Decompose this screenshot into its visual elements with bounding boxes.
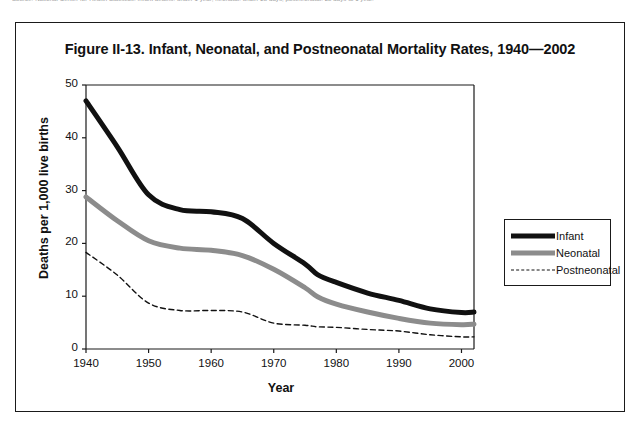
x-tick-label: 1980 — [311, 357, 361, 369]
mortality-rates-line-chart — [16, 23, 626, 413]
x-tick-label: 1950 — [124, 357, 174, 369]
legend-item-postneonatal: Postneonatal — [511, 261, 604, 278]
x-tick-label: 1970 — [249, 357, 299, 369]
series-line-postneonatal — [86, 252, 474, 337]
legend-item-neonatal: Neonatal — [511, 244, 604, 261]
x-axis-title: Year — [86, 381, 476, 395]
y-tick-label: 50 — [44, 77, 78, 89]
legend-label-infant: Infant — [555, 230, 584, 242]
y-tick-label: 30 — [44, 183, 78, 195]
legend-label-neonatal: Neonatal — [555, 247, 600, 259]
x-tick-label: 2000 — [436, 357, 486, 369]
x-tick-label: 1960 — [186, 357, 236, 369]
figure-container: Figure II-13. Infant, Neonatal, and Post… — [15, 22, 625, 412]
chart-plot-area: Deaths per 1,000 live births Year 010203… — [16, 23, 626, 413]
figure-page: Source: National Center for Health Stati… — [0, 0, 641, 428]
y-tick-label: 0 — [44, 341, 78, 353]
x-tick-label: 1940 — [61, 357, 111, 369]
legend-swatch-neonatal-icon — [511, 247, 555, 259]
y-tick-label: 10 — [44, 288, 78, 300]
x-tick-label: 1990 — [374, 357, 424, 369]
page-footnote-fragment: Source: National Center for Health Stati… — [12, 0, 432, 5]
legend-item-infant: Infant — [511, 227, 604, 244]
series-line-infant — [86, 101, 474, 313]
legend-swatch-infant-icon — [511, 230, 555, 242]
chart-legend: Infant Neonatal Postneonatal — [504, 219, 611, 286]
legend-label-postneonatal: Postneonatal — [555, 264, 620, 276]
y-tick-label: 20 — [44, 235, 78, 247]
legend-swatch-postneonatal-icon — [511, 264, 555, 276]
y-tick-label: 40 — [44, 130, 78, 142]
